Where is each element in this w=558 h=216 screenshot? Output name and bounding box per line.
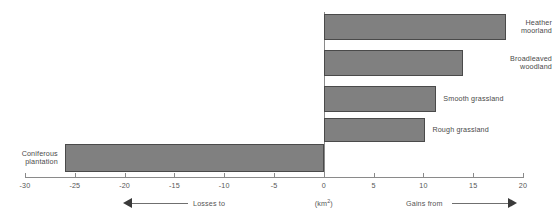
x-axis-tick [75, 173, 76, 178]
bar [324, 86, 437, 112]
bar-label: Heathermoorland [521, 19, 552, 36]
x-axis-tick-label: 5 [359, 181, 389, 190]
x-axis-tick-label: -20 [110, 181, 140, 190]
bar [65, 144, 324, 172]
x-axis-tick-label: -30 [10, 181, 40, 190]
gains-arrow-icon [508, 198, 517, 208]
chart-container: HeathermoorlandBroadleavedwoodlandSmooth… [0, 0, 558, 216]
x-axis-tick-label: 10 [408, 181, 438, 190]
bar-label: Smooth grassland [443, 95, 503, 104]
x-axis-tick [423, 173, 424, 178]
x-axis-tick-label: -10 [209, 181, 239, 190]
bar [324, 118, 426, 142]
gains-label: Gains from [406, 199, 443, 208]
bar [324, 50, 463, 76]
bar-label: Rough grassland [432, 126, 489, 135]
x-axis-tick-label: 0 [309, 181, 339, 190]
x-axis-tick [174, 173, 175, 178]
bar [324, 14, 506, 40]
x-axis-tick-label: 15 [458, 181, 488, 190]
bar-label: Broadleavedwoodland [510, 55, 552, 72]
x-axis-tick [324, 173, 325, 178]
x-axis-tick [374, 173, 375, 178]
x-axis-tick-label: -15 [159, 181, 189, 190]
x-axis-tick-label: -5 [259, 181, 289, 190]
x-axis-tick [473, 173, 474, 178]
bar-label-line: woodland [510, 63, 552, 72]
unit-text: (km [315, 199, 327, 208]
gains-arrow-line [452, 203, 508, 204]
unit-tail: ) [330, 199, 333, 208]
x-axis-tick [523, 173, 524, 178]
bar-label-line: plantation [22, 158, 58, 167]
x-axis-tick [125, 173, 126, 178]
bar-label-line: Smooth grassland [443, 95, 503, 104]
bar-label: Coniferousplantation [22, 150, 58, 167]
x-axis-tick [274, 173, 275, 178]
x-axis-tick [224, 173, 225, 178]
plot-area: HeathermoorlandBroadleavedwoodlandSmooth… [0, 0, 558, 178]
x-axis-tick-label: -25 [60, 181, 90, 190]
bar-label-line: Rough grassland [432, 126, 489, 135]
losses-label: Losses to [193, 199, 225, 208]
unit-label: (km2) [294, 199, 354, 208]
bar-label-line: moorland [521, 27, 552, 36]
x-axis-tick-label: 20 [508, 181, 538, 190]
losses-arrow-icon [123, 198, 132, 208]
losses-arrow-line [132, 203, 188, 204]
x-axis-tick [25, 173, 26, 178]
